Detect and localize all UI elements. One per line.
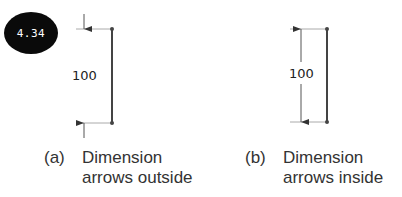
figure-b-drawing: 100 <box>289 27 329 124</box>
caption-a-label: (a) <box>44 148 82 168</box>
vertex-dot <box>110 121 114 125</box>
caption-a-line1: Dimension <box>82 148 162 167</box>
caption-a-line2: arrows outside <box>44 168 193 188</box>
figure-a-drawing: 100 <box>72 14 114 138</box>
caption-b-line1: Dimension <box>283 148 363 167</box>
vertex-dot <box>325 120 329 124</box>
caption-a: (a)Dimension arrows outside <box>44 148 193 188</box>
caption-b-line2: arrows inside <box>245 168 383 188</box>
dimension-value-a: 100 <box>72 68 97 83</box>
caption-b-label: (b) <box>245 148 283 168</box>
vertex-dot <box>110 27 114 31</box>
vertex-dot <box>325 27 329 31</box>
dimension-value-b: 100 <box>289 66 314 81</box>
caption-b: (b)Dimension arrows inside <box>245 148 383 188</box>
